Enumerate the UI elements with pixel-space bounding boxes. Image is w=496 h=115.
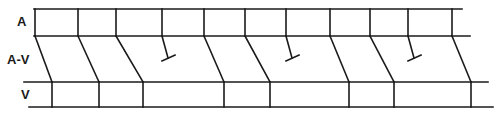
tier-label-av: A-V	[7, 52, 30, 67]
ladder-diagram: A A-V V	[0, 0, 496, 115]
av-conduction	[370, 36, 394, 82]
block-bar	[408, 55, 421, 61]
blocked-conduction	[162, 36, 168, 58]
blocked-conduction	[408, 36, 414, 58]
block-bar	[162, 55, 175, 61]
av-conduction	[204, 36, 224, 82]
av-conduction	[452, 36, 471, 82]
ladder-lines	[24, 9, 493, 107]
blocked-conduction	[286, 36, 292, 58]
av-conduction	[245, 36, 270, 82]
av-conduction	[35, 36, 52, 82]
tier-label-a: A	[17, 14, 27, 29]
tier-label-v: V	[21, 87, 30, 102]
block-bar	[286, 55, 299, 61]
av-conduction	[116, 36, 143, 82]
av-conduction	[330, 36, 349, 82]
av-conduction	[78, 36, 99, 82]
